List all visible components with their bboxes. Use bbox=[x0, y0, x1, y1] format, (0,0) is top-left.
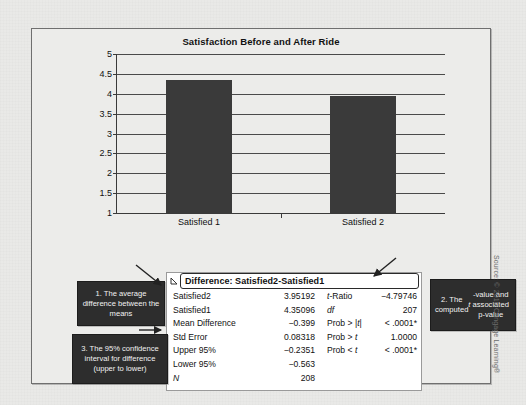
t-test-results-panel: Difference: Satisfied2-Satisfied1 Satisf… bbox=[166, 272, 422, 391]
stat-value: 207 bbox=[363, 304, 417, 317]
figure-frame: Satisfaction Before and After Ride 11.52… bbox=[31, 28, 491, 384]
callout-t-value-p-value: 2. The computed t-value and associated p… bbox=[430, 279, 516, 331]
y-axis-tick-label: 4 bbox=[107, 89, 112, 99]
x-axis-tick-mark bbox=[281, 213, 282, 218]
y-axis-tick-mark bbox=[113, 134, 117, 135]
y-axis-tick-mark bbox=[113, 74, 117, 75]
y-axis-tick-mark bbox=[113, 213, 117, 214]
y-axis-tick-label: 3.5 bbox=[99, 109, 112, 119]
stats-panel-header[interactable]: Difference: Satisfied2-Satisfied1 bbox=[167, 273, 421, 289]
stat-label: Lower 95% bbox=[173, 358, 261, 371]
stat-label: Std Error bbox=[173, 331, 261, 344]
stat-label: Satisfied1 bbox=[173, 304, 261, 317]
bar bbox=[330, 96, 396, 213]
stats-panel-title: Difference: Satisfied2-Satisfied1 bbox=[181, 276, 324, 286]
stats-panel-body: Satisfied23.95192Satisfied14.35096Mean D… bbox=[167, 290, 421, 389]
y-axis-tick-label: 4.5 bbox=[99, 69, 112, 79]
stat-value: 208 bbox=[257, 372, 315, 385]
x-axis-tick-label: Satisfied 2 bbox=[342, 217, 384, 227]
chart-title: Satisfaction Before and After Ride bbox=[32, 36, 490, 47]
y-axis-tick-mark bbox=[113, 193, 117, 194]
y-axis-tick-label: 2.5 bbox=[99, 148, 112, 158]
stat-label: Mean Difference bbox=[173, 317, 261, 330]
stat-label: N bbox=[173, 372, 261, 385]
stat-value: −4.79746 bbox=[363, 290, 417, 303]
gridline bbox=[117, 54, 445, 55]
y-axis-tick-mark bbox=[113, 94, 117, 95]
y-axis-tick-label: 1.5 bbox=[99, 188, 112, 198]
callout-average-difference: 1. The average difference between the me… bbox=[77, 281, 165, 326]
stat-value: 0.08318 bbox=[257, 331, 315, 344]
y-axis-tick-label: 2 bbox=[107, 168, 112, 178]
stat-value: 3.95192 bbox=[257, 290, 315, 303]
y-axis-tick-label: 3 bbox=[107, 129, 112, 139]
source-credit: Source: © 2010 Cengage Learning® bbox=[493, 255, 500, 373]
stat-value: −0.2351 bbox=[257, 344, 315, 357]
bar bbox=[166, 80, 232, 213]
stat-label: Satisfied2 bbox=[173, 290, 261, 303]
stat-value: 1.0000 bbox=[363, 331, 417, 344]
y-axis-tick-label: 5 bbox=[107, 49, 112, 59]
y-axis-tick-mark bbox=[113, 114, 117, 115]
stats-title-box: Difference: Satisfied2-Satisfied1 bbox=[180, 273, 419, 289]
stat-label: Upper 95% bbox=[173, 344, 261, 357]
stat-value: −0.399 bbox=[257, 317, 315, 330]
bar-chart: Satisfaction Before and After Ride 11.52… bbox=[32, 29, 490, 234]
callout-confidence-interval: 3. The 95% confidence interval for diffe… bbox=[72, 334, 168, 384]
stat-value: < .0001* bbox=[363, 344, 417, 357]
plot-area: 11.522.533.544.55Satisfied 1Satisfied 2 bbox=[116, 54, 445, 214]
gridline bbox=[117, 74, 445, 75]
stat-value: < .0001* bbox=[363, 317, 417, 330]
x-axis-tick-label: Satisfied 1 bbox=[178, 217, 220, 227]
y-axis-tick-label: 1 bbox=[107, 208, 112, 218]
y-axis-tick-mark bbox=[113, 54, 117, 55]
y-axis-tick-mark bbox=[113, 173, 117, 174]
triangle-left-icon[interactable] bbox=[167, 277, 180, 285]
stat-value: 4.35096 bbox=[257, 304, 315, 317]
y-axis-tick-mark bbox=[113, 153, 117, 154]
stat-value: −0.563 bbox=[257, 358, 315, 371]
